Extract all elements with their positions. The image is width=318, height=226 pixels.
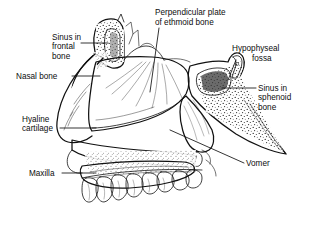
nasal-septum-anatomy-figure: Sinus in frontal bone Perpendicular plat… [0, 0, 318, 226]
label-nasal-bone: Nasal bone [16, 72, 58, 81]
label-vomer: Vomer [246, 159, 270, 168]
label-maxilla: Maxilla [29, 169, 55, 178]
label-hyaline-cartilage: Hyaline cartilage [22, 115, 53, 133]
